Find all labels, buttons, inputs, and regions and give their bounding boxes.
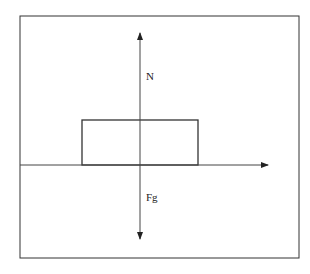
gravity-force-label: Fg (146, 191, 158, 203)
diagram-frame (20, 16, 299, 258)
normal-force-label: N (146, 70, 154, 82)
free-body-diagram: N Fg (0, 0, 310, 274)
